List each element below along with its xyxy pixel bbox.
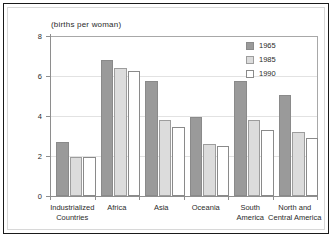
legend-item-1965: 1965 xyxy=(246,40,308,51)
x-tick-mark xyxy=(139,196,140,200)
y-tick-label-wrap: 2 xyxy=(28,156,42,157)
bar xyxy=(190,117,203,196)
legend-swatch-icon-1990 xyxy=(246,70,254,78)
y-tick-label: 4 xyxy=(28,112,42,121)
y-tick-label-wrap: 6 xyxy=(28,76,42,77)
y-tick-label-wrap: 4 xyxy=(28,116,42,117)
y-tick-label: 6 xyxy=(28,72,42,81)
x-tick-mark xyxy=(184,196,185,200)
x-tick-mark xyxy=(95,196,96,200)
bar xyxy=(234,81,247,196)
bar xyxy=(56,142,69,196)
y-tick-label: 2 xyxy=(28,152,42,161)
bar xyxy=(83,157,96,196)
x-category-label: North and Central America xyxy=(267,203,324,222)
bar xyxy=(203,144,216,196)
chart-screenshot: (births per woman) 02468 Industrialized … xyxy=(0,0,332,237)
bar xyxy=(306,138,319,196)
legend-item-1990: 1990 xyxy=(246,68,308,79)
y-tick-label: 8 xyxy=(28,32,42,41)
legend-item-1985: 1985 xyxy=(246,54,308,65)
y-tick-label: 0 xyxy=(28,192,42,201)
y-tick-label-wrap: 8 xyxy=(28,36,42,37)
bar xyxy=(248,120,261,196)
bar xyxy=(279,95,292,196)
chart-subtitle: (births per woman) xyxy=(51,20,121,29)
bar xyxy=(292,132,305,196)
legend-label-1985: 1985 xyxy=(259,55,276,64)
bar xyxy=(159,120,172,196)
bar xyxy=(128,71,141,196)
x-tick-mark xyxy=(50,196,51,200)
bar xyxy=(217,146,230,196)
bar xyxy=(70,157,83,196)
legend-label-1965: 1965 xyxy=(259,41,276,50)
legend-swatch-icon-1985 xyxy=(246,56,254,64)
legend-label-1990: 1990 xyxy=(259,69,276,78)
y-tick-label-wrap: 0 xyxy=(28,196,42,197)
bar xyxy=(172,127,185,196)
legend-swatch-icon-1965 xyxy=(246,42,254,50)
x-tick-mark xyxy=(317,196,318,200)
bar xyxy=(101,60,114,196)
bar xyxy=(114,68,127,196)
bar xyxy=(145,81,158,196)
x-tick-mark xyxy=(273,196,274,200)
x-tick-mark xyxy=(228,196,229,200)
chart-legend: 1965 1985 1990 xyxy=(246,40,308,82)
bar xyxy=(261,130,274,196)
